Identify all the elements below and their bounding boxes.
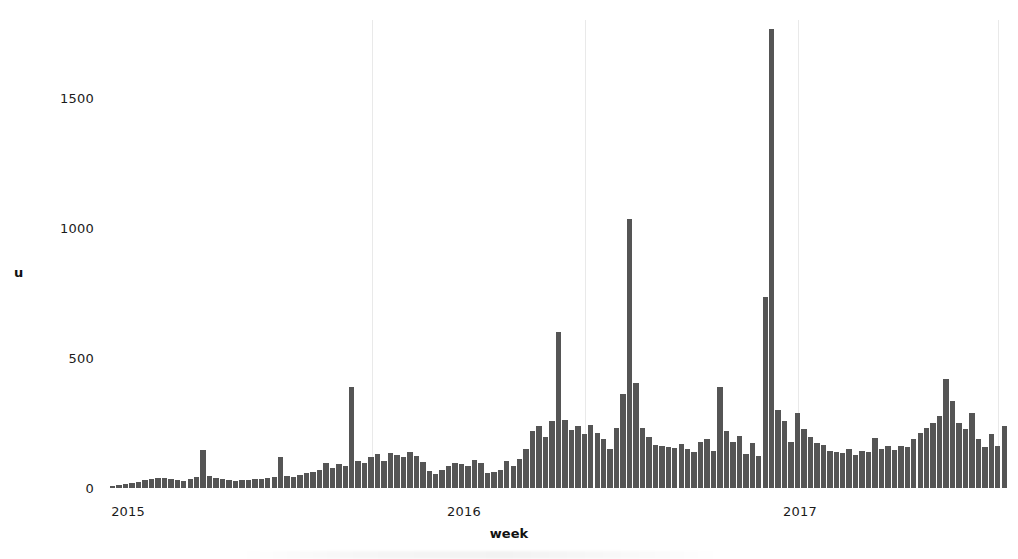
bar xyxy=(136,482,141,488)
bar xyxy=(950,401,955,488)
bar xyxy=(698,442,703,488)
bar xyxy=(420,462,425,488)
bar xyxy=(717,387,722,488)
bar xyxy=(569,430,574,488)
bar xyxy=(433,474,438,488)
bar xyxy=(465,466,470,488)
bar xyxy=(323,463,328,488)
y-tick-label: 1000 xyxy=(60,222,94,235)
y-tick-label: 0 xyxy=(86,482,94,495)
bar xyxy=(918,433,923,488)
bar xyxy=(317,470,322,488)
bar xyxy=(679,444,684,488)
bar xyxy=(653,445,658,488)
bar xyxy=(233,481,238,488)
bar xyxy=(478,463,483,488)
bar xyxy=(381,461,386,488)
bar xyxy=(834,452,839,488)
bar xyxy=(989,434,994,488)
bar xyxy=(846,449,851,488)
x-axis-tick-labels: 201520162017 xyxy=(0,505,1018,527)
bar xyxy=(194,477,199,488)
bar xyxy=(226,480,231,488)
bar xyxy=(659,446,664,488)
bar xyxy=(265,478,270,488)
bar xyxy=(175,480,180,488)
bar xyxy=(956,423,961,488)
bar xyxy=(446,466,451,488)
bar xyxy=(976,439,981,488)
bar xyxy=(769,29,774,488)
bar xyxy=(1002,426,1007,488)
bar xyxy=(801,429,806,488)
bar xyxy=(491,472,496,488)
bar xyxy=(827,451,832,488)
y-tick-label: 500 xyxy=(69,352,94,365)
x-axis-title: week xyxy=(0,527,1018,540)
bar xyxy=(763,297,768,488)
bar xyxy=(840,453,845,488)
bar xyxy=(646,437,651,488)
bar xyxy=(375,454,380,488)
bar xyxy=(336,464,341,488)
bar xyxy=(859,451,864,488)
bar xyxy=(750,443,755,488)
bar xyxy=(452,463,457,488)
bar xyxy=(795,413,800,488)
bar xyxy=(129,483,134,488)
bar xyxy=(556,332,561,488)
x-tick-label: 2017 xyxy=(783,505,817,518)
bar xyxy=(181,481,186,488)
bar xyxy=(355,461,360,488)
bar xyxy=(814,443,819,488)
bar xyxy=(782,421,787,488)
bar xyxy=(155,478,160,488)
bar xyxy=(995,446,1000,488)
bar-series xyxy=(110,20,1008,488)
bar xyxy=(885,446,890,488)
y-axis-title: u xyxy=(14,266,23,279)
bar xyxy=(730,442,735,488)
bar xyxy=(330,468,335,488)
bar xyxy=(866,452,871,488)
bar xyxy=(349,387,354,488)
bar xyxy=(775,410,780,488)
bar xyxy=(633,383,638,488)
bar xyxy=(614,428,619,488)
bar xyxy=(414,456,419,488)
bar xyxy=(485,473,490,488)
bar xyxy=(530,431,535,488)
bar xyxy=(284,476,289,488)
bar xyxy=(407,452,412,488)
bar xyxy=(188,479,193,488)
bar xyxy=(523,449,528,488)
bar xyxy=(252,479,257,488)
bar xyxy=(595,433,600,488)
bar xyxy=(304,473,309,488)
bar xyxy=(213,478,218,488)
bar xyxy=(575,426,580,488)
bar xyxy=(123,484,128,488)
bar xyxy=(930,423,935,488)
bar xyxy=(943,379,948,488)
bar xyxy=(549,421,554,488)
bar xyxy=(297,475,302,488)
y-axis-tick-labels: 050010001500 xyxy=(34,0,94,559)
bar xyxy=(511,466,516,488)
bar xyxy=(504,461,509,488)
bar xyxy=(362,463,367,488)
bar xyxy=(394,455,399,488)
bar xyxy=(872,438,877,488)
bar xyxy=(620,394,625,488)
bar xyxy=(892,450,897,488)
bar xyxy=(911,439,916,488)
bar xyxy=(756,456,761,488)
y-tick-label: 1500 xyxy=(60,92,94,105)
bar xyxy=(937,416,942,488)
bar xyxy=(388,453,393,488)
bar xyxy=(368,457,373,488)
x-tick-label: 2015 xyxy=(111,505,145,518)
bar xyxy=(439,470,444,488)
bar xyxy=(704,439,709,488)
bar xyxy=(517,459,522,488)
